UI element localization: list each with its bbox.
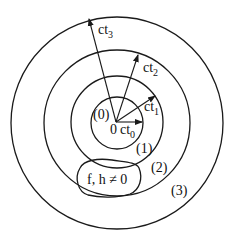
region-label-2: (2) xyxy=(151,160,168,176)
region-label-1: (1) xyxy=(136,141,153,157)
origin-label: 0 xyxy=(110,122,117,137)
label-ct0: ct0 xyxy=(120,122,135,140)
source-region-label: f, h ≠ 0 xyxy=(87,172,127,187)
radius-arrow-ct2 xyxy=(116,55,138,122)
light-cone-diagram: ct3 ct2 ct1 ct0 0 (0) (1) (2) (3) f, h ≠… xyxy=(0,0,233,242)
region-label-0: (0) xyxy=(93,107,110,123)
label-ct3: ct3 xyxy=(98,22,113,40)
label-ct2: ct2 xyxy=(143,60,158,78)
region-label-3: (3) xyxy=(171,183,188,199)
label-ct1: ct1 xyxy=(144,99,159,117)
